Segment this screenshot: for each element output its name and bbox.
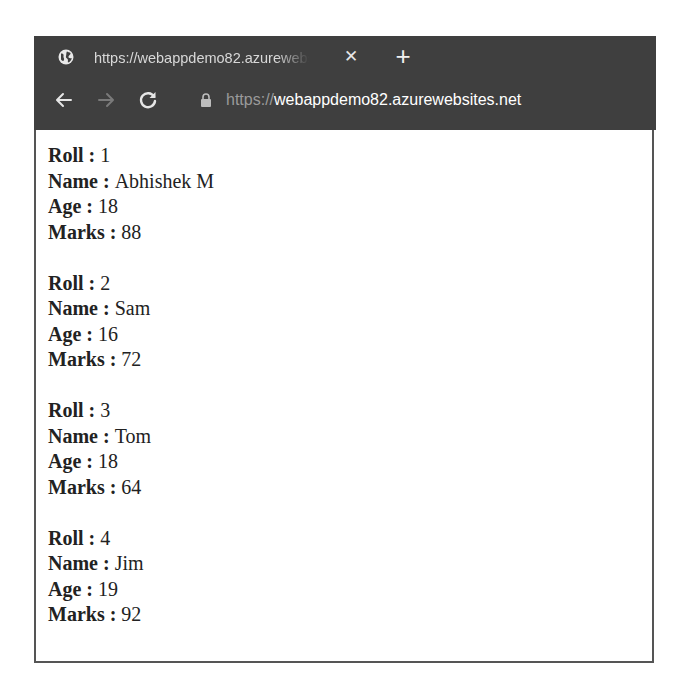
age-line: Age : 16 — [48, 322, 642, 348]
marks-line: Marks : 72 — [48, 347, 642, 373]
browser-tab[interactable]: https://webappdemo82.azurewebsites.net ✕ — [34, 36, 379, 80]
url-scheme: https:// — [226, 91, 274, 108]
marks-value: 72 — [121, 348, 141, 370]
age-line: Age : 18 — [48, 449, 642, 475]
tab-strip: https://webappdemo82.azurewebsites.net ✕… — [34, 36, 656, 80]
tab-close-button[interactable]: ✕ — [342, 47, 360, 67]
roll-label: Roll : — [48, 144, 100, 166]
student-record: Roll : 4 Name : Jim Age : 19 Marks : 92 — [48, 526, 642, 628]
name-value: Abhishek M — [115, 170, 214, 192]
roll-value: 1 — [100, 144, 110, 166]
globe-icon — [58, 49, 74, 65]
browser-chrome: https://webappdemo82.azurewebsites.net ✕… — [34, 36, 656, 130]
browser-window: https://webappdemo82.azurewebsites.net ✕… — [34, 36, 654, 663]
age-label: Age : — [48, 323, 98, 345]
name-label: Name : — [48, 297, 115, 319]
name-value: Sam — [115, 297, 151, 319]
marks-line: Marks : 88 — [48, 220, 642, 246]
reload-button[interactable] — [136, 88, 160, 112]
page-content: Roll : 1 Name : Abhishek M Age : 18 Mark… — [48, 143, 642, 653]
roll-line: Roll : 3 — [48, 398, 642, 424]
age-label: Age : — [48, 450, 98, 472]
marks-value: 92 — [121, 603, 141, 625]
marks-label: Marks : — [48, 476, 121, 498]
address-bar[interactable]: https://webappdemo82.azurewebsites.net — [184, 86, 644, 116]
name-value: Tom — [115, 425, 151, 447]
name-line: Name : Abhishek M — [48, 169, 642, 195]
marks-value: 64 — [121, 476, 141, 498]
student-record: Roll : 3 Name : Tom Age : 18 Marks : 64 — [48, 398, 642, 500]
forward-button[interactable] — [94, 88, 118, 112]
lock-icon — [200, 93, 212, 107]
arrow-left-icon — [52, 88, 76, 112]
new-tab-button[interactable]: + — [392, 44, 414, 68]
name-line: Name : Sam — [48, 296, 642, 322]
age-line: Age : 18 — [48, 194, 642, 220]
url-text[interactable]: https://webappdemo82.azurewebsites.net — [226, 90, 521, 110]
roll-line: Roll : 1 — [48, 143, 642, 169]
tab-title: https://webappdemo82.azurewebsites.net — [94, 48, 309, 68]
roll-label: Roll : — [48, 527, 100, 549]
reload-icon — [136, 88, 160, 112]
toolbar: https://webappdemo82.azurewebsites.net — [34, 80, 656, 130]
age-value: 19 — [98, 578, 118, 600]
url-host: webappdemo82.azurewebsites.net — [274, 91, 521, 108]
name-line: Name : Tom — [48, 424, 642, 450]
marks-label: Marks : — [48, 603, 121, 625]
age-value: 16 — [98, 323, 118, 345]
marks-value: 88 — [121, 221, 141, 243]
student-record: Roll : 1 Name : Abhishek M Age : 18 Mark… — [48, 143, 642, 245]
name-line: Name : Jim — [48, 551, 642, 577]
marks-label: Marks : — [48, 348, 121, 370]
roll-line: Roll : 4 — [48, 526, 642, 552]
roll-label: Roll : — [48, 272, 100, 294]
student-record: Roll : 2 Name : Sam Age : 16 Marks : 72 — [48, 271, 642, 373]
arrow-right-icon — [94, 88, 118, 112]
age-label: Age : — [48, 578, 98, 600]
name-label: Name : — [48, 425, 115, 447]
age-value: 18 — [98, 195, 118, 217]
age-label: Age : — [48, 195, 98, 217]
name-label: Name : — [48, 552, 115, 574]
roll-line: Roll : 2 — [48, 271, 642, 297]
roll-value: 3 — [100, 399, 110, 421]
marks-line: Marks : 92 — [48, 602, 642, 628]
marks-line: Marks : 64 — [48, 475, 642, 501]
age-line: Age : 19 — [48, 577, 642, 603]
back-button[interactable] — [52, 88, 76, 112]
name-value: Jim — [115, 552, 144, 574]
roll-value: 2 — [100, 272, 110, 294]
name-label: Name : — [48, 170, 115, 192]
age-value: 18 — [98, 450, 118, 472]
roll-value: 4 — [100, 527, 110, 549]
roll-label: Roll : — [48, 399, 100, 421]
marks-label: Marks : — [48, 221, 121, 243]
